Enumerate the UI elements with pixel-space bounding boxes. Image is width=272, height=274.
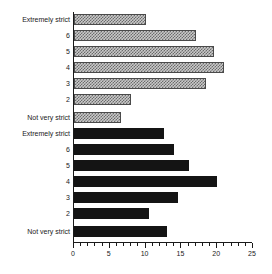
bar-solid <box>74 176 217 187</box>
bar-hatched <box>74 78 206 89</box>
bar-row-label: Extremely strict <box>2 14 70 25</box>
x-axis-tick-label: 0 <box>71 250 75 258</box>
bar-rows: Extremely strict65432Not very strictExtr… <box>0 0 272 242</box>
bar-hatched <box>74 94 131 105</box>
x-axis-minor-tick <box>231 243 232 246</box>
x-axis-minor-tick <box>80 243 81 246</box>
bar-row-label: 6 <box>2 30 70 41</box>
bar-row-label: 3 <box>2 78 70 89</box>
x-axis-minor-tick <box>130 243 131 246</box>
x-axis-minor-tick <box>173 243 174 246</box>
x-axis-minor-tick <box>245 243 246 246</box>
bar-hatched <box>74 46 214 57</box>
x-axis-major-tick <box>216 243 217 248</box>
bar-hatched <box>74 14 146 25</box>
x-axis-major-tick <box>109 243 110 248</box>
x-axis-minor-tick <box>159 243 160 246</box>
bar-row-label: 6 <box>2 144 70 155</box>
bar-row-label: 4 <box>2 62 70 73</box>
x-axis-minor-tick <box>87 243 88 246</box>
x-axis-tick-label: 20 <box>212 250 220 258</box>
bar-row-label: 2 <box>2 94 70 105</box>
x-axis-major-tick <box>252 243 253 248</box>
bar-row-label: Not very strict <box>2 226 70 237</box>
bar-solid <box>74 226 167 237</box>
bar-solid <box>74 128 164 139</box>
bar-row-label: 5 <box>2 160 70 171</box>
x-axis-major-tick <box>180 243 181 248</box>
x-axis-line <box>73 242 252 243</box>
x-axis-minor-tick <box>188 243 189 246</box>
x-axis-minor-tick <box>166 243 167 246</box>
x-axis-major-tick <box>73 243 74 248</box>
x-axis-minor-tick <box>137 243 138 246</box>
bar-row-label: 5 <box>2 46 70 57</box>
x-axis-major-tick <box>145 243 146 248</box>
bar-chart: 0510152025 Extremely strict65432Not very… <box>0 0 272 274</box>
bar-hatched <box>74 112 121 123</box>
x-axis-minor-tick <box>152 243 153 246</box>
bar-row-label: 2 <box>2 208 70 219</box>
x-axis-minor-tick <box>209 243 210 246</box>
x-axis-minor-tick <box>102 243 103 246</box>
bar-row-label: Extremely strict <box>2 128 70 139</box>
x-axis-minor-tick <box>94 243 95 246</box>
x-axis-tick-label: 5 <box>107 250 111 258</box>
x-axis-minor-tick <box>195 243 196 246</box>
x-axis-minor-tick <box>238 243 239 246</box>
bar-row-label: 3 <box>2 192 70 203</box>
x-axis-tick-label: 25 <box>248 250 256 258</box>
bar-solid <box>74 192 178 203</box>
x-axis-minor-tick <box>116 243 117 246</box>
bar-solid <box>74 144 174 155</box>
bar-solid <box>74 208 149 219</box>
bar-solid <box>74 160 189 171</box>
bar-hatched <box>74 30 196 41</box>
bar-row-label: Not very strict <box>2 112 70 123</box>
bar-row-label: 4 <box>2 176 70 187</box>
x-axis-minor-tick <box>202 243 203 246</box>
x-axis-tick-label: 10 <box>141 250 149 258</box>
bar-hatched <box>74 62 224 73</box>
x-axis-tick-label: 15 <box>176 250 184 258</box>
x-axis-minor-tick <box>223 243 224 246</box>
x-axis-minor-tick <box>123 243 124 246</box>
